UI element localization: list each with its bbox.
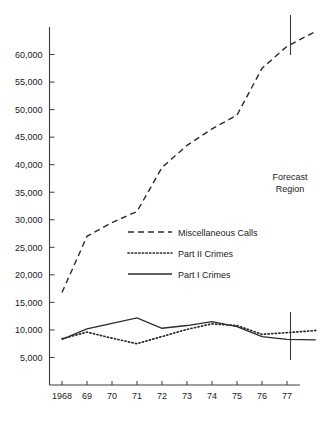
x-tick-label: 72 xyxy=(157,391,167,401)
y-tick-label: 5,000 xyxy=(20,353,43,363)
forecast-region-annotation: Forecast Region xyxy=(272,172,308,194)
x-tick-label: 74 xyxy=(207,391,217,401)
x-tick-label: 70 xyxy=(107,391,117,401)
x-tick-label: 71 xyxy=(132,391,142,401)
legend-label-part-ii-crimes: Part II Crimes xyxy=(178,249,234,259)
legend-entry-part-i-crimes: Part I Crimes xyxy=(128,270,231,280)
line-chart: 5,00010,00015,00020,00025,00030,00035,00… xyxy=(0,0,329,421)
y-tick-label: 50,000 xyxy=(15,105,43,115)
legend-entry-miscellaneous-calls: Miscellaneous Calls xyxy=(128,228,258,238)
y-tick-label: 40,000 xyxy=(15,160,43,170)
chart-container: 5,00010,00015,00020,00025,00030,00035,00… xyxy=(0,0,329,421)
y-tick-label: 30,000 xyxy=(15,215,43,225)
series-part-ii-crimes xyxy=(62,324,316,344)
x-tick-label: 73 xyxy=(182,391,192,401)
x-tick-label: 1968 xyxy=(52,391,72,401)
y-tick-label: 25,000 xyxy=(15,243,43,253)
x-tick-label: 69 xyxy=(82,391,92,401)
x-axis-ticks: 1968697071727374757677 xyxy=(52,381,292,401)
forecast-region-label-line1: Forecast xyxy=(272,172,308,182)
y-tick-label: 35,000 xyxy=(15,188,43,198)
y-tick-label: 45,000 xyxy=(15,132,43,142)
y-axis-ticks: 5,00010,00015,00020,00025,00030,00035,00… xyxy=(15,50,55,363)
y-tick-label: 20,000 xyxy=(15,270,43,280)
y-tick-label: 55,000 xyxy=(15,77,43,87)
x-tick-label: 76 xyxy=(257,391,267,401)
x-tick-label: 75 xyxy=(232,391,242,401)
chart-legend: Miscellaneous Calls Part II Crimes Part … xyxy=(128,228,258,280)
y-tick-label: 60,000 xyxy=(15,50,43,60)
forecast-region-label-line2: Region xyxy=(276,184,305,194)
y-tick-label: 15,000 xyxy=(15,298,43,308)
legend-entry-part-ii-crimes: Part II Crimes xyxy=(128,249,234,259)
legend-label-part-i-crimes: Part I Crimes xyxy=(178,270,231,280)
legend-label-miscellaneous-calls: Miscellaneous Calls xyxy=(178,228,258,238)
x-tick-label: 77 xyxy=(282,391,292,401)
y-tick-label: 10,000 xyxy=(15,325,43,335)
